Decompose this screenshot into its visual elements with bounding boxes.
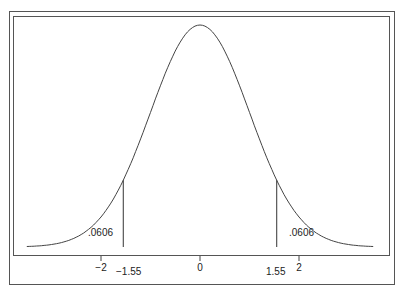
x-tick-label: −2	[95, 262, 107, 273]
normal-distribution-chart: −202 .0606 .0606 −1.55 1.55	[0, 0, 402, 292]
density-curve	[27, 25, 373, 247]
x-tick-label: 2	[296, 262, 302, 273]
critical-label-right: 1.55	[266, 266, 286, 277]
outer-frame	[10, 12, 395, 285]
tail-area-right-label: .0606	[289, 227, 314, 238]
x-tick-label: 0	[197, 262, 203, 273]
critical-label-left: −1.55	[116, 266, 142, 277]
tail-area-left-label: .0606	[88, 227, 113, 238]
plot-area-frame	[14, 17, 390, 256]
